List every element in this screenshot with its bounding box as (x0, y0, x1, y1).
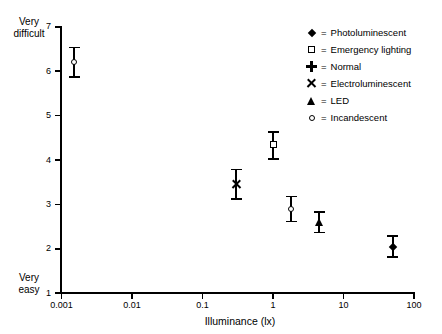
legend-equals-sign: = (321, 27, 327, 38)
x-tick-mark (272, 293, 274, 299)
x-tick-label: 0.1 (178, 301, 228, 310)
y-tick-label: 6 (33, 67, 51, 76)
legend-item-triangle: =LED (305, 92, 411, 109)
legend-marker-slot (305, 26, 318, 39)
error-bar-cap-top (314, 211, 325, 213)
square-marker-icon (270, 141, 277, 148)
triangle-marker-icon (315, 218, 323, 226)
legend-equals-sign: = (321, 112, 327, 123)
data-point (309, 211, 329, 233)
legend-equals-sign: = (321, 95, 327, 106)
y-tick-mark (55, 159, 61, 161)
y-tick-mark (55, 115, 61, 117)
error-bar-cap-top (268, 131, 279, 133)
circle-marker-icon (309, 115, 315, 121)
y-anchor-high-line2: difficult (0, 28, 58, 40)
error-bar-cap-bottom (69, 76, 80, 78)
y-tick-mark (55, 70, 61, 72)
scatter-chart-figure: 1234567 0.0010.010.1110100 Very difficul… (0, 0, 442, 334)
x-axis-line (60, 292, 415, 294)
legend-label: Electroluminescent (331, 78, 411, 89)
data-point (64, 47, 84, 78)
legend-marker-slot (305, 43, 318, 56)
legend-equals-sign: = (321, 44, 327, 55)
data-point (281, 196, 301, 223)
error-bar-cap-top (231, 169, 242, 171)
y-anchor-low-line1: Very (0, 272, 58, 284)
x-tick-mark (413, 293, 415, 299)
error-bar-cap-bottom (387, 256, 398, 258)
error-bar-cap-bottom (231, 198, 242, 200)
x-marker-icon (231, 179, 242, 190)
legend-marker-slot (305, 94, 318, 107)
x-tick-label: 10 (319, 301, 369, 310)
y-tick-mark (55, 248, 61, 250)
legend-item-circle: =Incandescent (305, 109, 411, 126)
error-bar-cap-top (69, 47, 80, 49)
x-tick-label: 0.01 (107, 301, 157, 310)
error-bar-cap-top (387, 235, 398, 237)
x-tick-mark (131, 293, 133, 299)
y-tick-label: 5 (33, 111, 51, 120)
error-bar-cap-bottom (268, 158, 279, 160)
legend-marker-slot (305, 111, 318, 124)
y-tick-label: 2 (33, 244, 51, 253)
legend-item-square: =Emergency lighting (305, 41, 411, 58)
legend-label: Normal (331, 61, 362, 72)
y-anchor-low-line2: easy (0, 284, 58, 296)
legend-label: Emergency lighting (331, 44, 412, 55)
y-axis-anchor-high: Very difficult (0, 16, 58, 39)
circle-marker-icon (71, 59, 77, 65)
diamond-marker-icon (307, 28, 315, 36)
legend-label: Incandescent (331, 112, 388, 123)
error-bar-cap-bottom (286, 221, 297, 223)
x-tick-label: 1 (248, 301, 298, 310)
legend-item-plus: =Normal (305, 58, 411, 75)
data-point (226, 169, 246, 200)
triangle-marker-icon (307, 97, 315, 105)
legend-equals-sign: = (321, 78, 327, 89)
error-bar-cap-top (286, 196, 297, 198)
error-bar-cap-bottom (314, 232, 325, 234)
x-tick-mark (202, 293, 204, 299)
y-tick-mark (55, 204, 61, 206)
legend-item-diamond: =Photoluminescent (305, 24, 411, 41)
data-point (263, 131, 283, 160)
x-tick-mark (343, 293, 345, 299)
diamond-marker-icon (389, 242, 397, 250)
y-anchor-high-line1: Very (0, 16, 58, 28)
x-tick-label: 100 (389, 301, 439, 310)
legend-marker-slot (305, 60, 318, 73)
legend-item-x: =Electroluminescent (305, 75, 411, 92)
square-marker-icon (308, 46, 315, 53)
legend-label: Photoluminescent (331, 27, 407, 38)
x-tick-mark (61, 293, 63, 299)
legend-label: LED (331, 95, 349, 106)
data-point (383, 235, 403, 257)
x-tick-label: 0.001 (37, 301, 87, 310)
x-marker-icon (306, 78, 317, 89)
circle-marker-icon (288, 206, 294, 212)
legend-marker-slot (305, 77, 318, 90)
chart-legend: =Photoluminescent=Emergency lighting=Nor… (305, 24, 411, 126)
y-tick-label: 3 (33, 200, 51, 209)
y-axis-anchor-low: Very easy (0, 272, 58, 295)
legend-equals-sign: = (321, 61, 327, 72)
x-axis-title: Illuminance (lx) (130, 315, 350, 327)
plus-marker-icon (306, 61, 317, 72)
y-tick-label: 4 (33, 156, 51, 165)
